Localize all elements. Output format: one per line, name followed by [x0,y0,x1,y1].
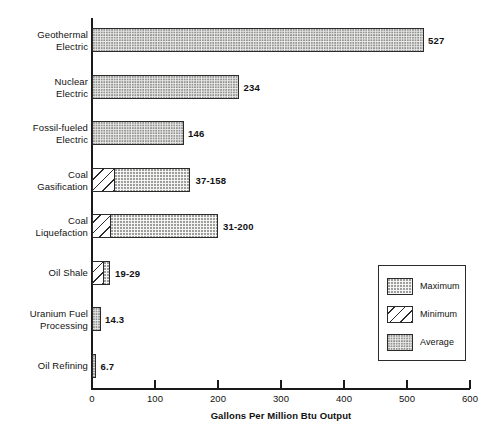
x-axis-tick [217,380,218,389]
category-label: Oil Refining [38,360,88,372]
bar-segment-maximum [114,168,190,192]
bar-segment-maximum [103,261,110,285]
category-label: Uranium Fuel Processing [30,308,88,331]
bar-value-label: 527 [428,35,444,46]
x-axis-tick-label: 400 [336,393,352,404]
bar-segment-minimum [92,168,115,192]
x-axis-tick [406,380,407,389]
x-axis-tick-label: 300 [273,393,289,404]
y-axis-line [91,18,93,388]
category-label: Coal Liquefaction [36,215,88,238]
category-label: Coal Gasification [37,169,88,192]
bar-value-label: 6.7 [101,361,115,372]
bar-value-label: 31-200 [223,221,254,232]
legend-item-minimum: Minimum [387,306,461,324]
bar-segment-average [92,121,184,145]
bar-chart: Geothermal Electric Nuclear Electric Fos… [0,0,495,444]
bar-segment-minimum [92,214,112,238]
x-axis-tick [154,380,155,389]
bar-segment-average [92,354,96,378]
bar-segment-average [92,75,239,99]
legend-label: Maximum [420,281,460,291]
x-axis-tick-label: 600 [462,393,478,404]
bar-value-label: 14.3 [105,314,124,325]
x-axis-tick-label: 500 [399,393,415,404]
legend-swatch-average-icon [387,334,413,351]
x-axis-tick-label: 100 [147,393,163,404]
x-axis-tick-label: 0 [89,393,94,404]
category-label: Geothermal Electric [37,29,88,52]
bar-segment-average [92,28,424,52]
category-label: Nuclear Electric [55,76,88,99]
x-axis-tick-label: 200 [210,393,226,404]
legend-label: Average [420,337,454,347]
category-label: Oil Shale [49,267,88,279]
x-axis-tick [91,380,92,389]
legend-item-average: Average [387,334,461,352]
x-axis-title: Gallons Per Million Btu Output [92,410,470,421]
bar-value-label: 19-29 [115,268,140,279]
x-axis-tick [343,380,344,389]
x-axis-tick [280,380,281,389]
bar-value-label: 234 [244,82,260,93]
bar-value-label: 146 [188,128,204,139]
legend-label: Minimum [420,309,457,319]
legend-swatch-minimum-icon [387,306,413,323]
bar-value-label: 37-158 [196,175,227,186]
bar-segment-maximum [110,214,217,238]
legend-swatch-maximum-icon [387,278,413,295]
bar-segment-average [92,307,101,331]
x-axis-tick [469,380,470,389]
chart-legend: Maximum Minimum Average [378,265,466,361]
legend-item-maximum: Maximum [387,278,461,296]
category-label: Fossil-fueled Electric [33,122,88,145]
